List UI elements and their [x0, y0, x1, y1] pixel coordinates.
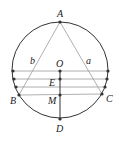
point: [106, 69, 109, 72]
label-O: O: [56, 58, 63, 69]
point: [14, 85, 17, 88]
point: [103, 85, 106, 88]
point: [12, 77, 15, 80]
side-AC: [60, 22, 102, 94]
label-M: M: [47, 95, 57, 106]
point-D: [58, 117, 61, 120]
point-E: [58, 77, 61, 80]
label-E: E: [48, 77, 55, 88]
geometry-diagram: A O E M D B C b a: [0, 0, 122, 142]
label-D: D: [55, 123, 64, 134]
point: [105, 77, 108, 80]
label-B: B: [10, 95, 16, 106]
label-A: A: [56, 8, 64, 19]
label-side-b: b: [30, 55, 35, 66]
point-A: [58, 20, 61, 23]
point-M: [58, 93, 61, 96]
point-C: [100, 92, 103, 95]
point-O: [58, 69, 61, 72]
point-B: [17, 93, 20, 96]
point: [11, 69, 14, 72]
label-C: C: [106, 93, 113, 104]
label-side-a: a: [86, 55, 91, 66]
